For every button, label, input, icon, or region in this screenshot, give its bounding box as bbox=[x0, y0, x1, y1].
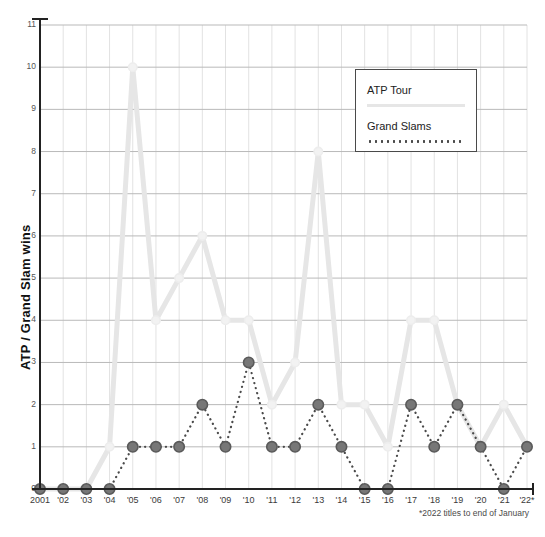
data-point-atp-tour bbox=[198, 232, 206, 240]
x-axis-tick-2010: '10 bbox=[243, 495, 255, 505]
x-axis-tick-2014: '14 bbox=[336, 495, 348, 505]
x-axis-tick-2020: '20 bbox=[475, 495, 487, 505]
data-point-grand-slams bbox=[336, 442, 346, 452]
data-point-atp-tour bbox=[407, 316, 415, 324]
data-point-atp-tour bbox=[221, 316, 229, 324]
x-axis-tick-2008: '08 bbox=[196, 495, 208, 505]
data-point-atp-tour bbox=[337, 400, 345, 408]
legend-swatch-grand-slams bbox=[367, 140, 465, 143]
data-point-atp-tour bbox=[291, 358, 299, 366]
data-point-atp-tour bbox=[105, 443, 113, 451]
x-axis-tick-2006: '06 bbox=[150, 495, 162, 505]
data-point-grand-slams bbox=[452, 399, 462, 409]
data-point-atp-tour bbox=[430, 316, 438, 324]
data-point-atp-tour bbox=[500, 400, 508, 408]
data-point-atp-tour bbox=[384, 443, 392, 451]
x-axis-tick-2022: '22* bbox=[519, 495, 534, 505]
data-point-grand-slams bbox=[174, 442, 184, 452]
legend-label-atp-tour: ATP Tour bbox=[367, 84, 412, 96]
data-point-grand-slams bbox=[406, 399, 416, 409]
data-point-grand-slams bbox=[128, 442, 138, 452]
data-point-grand-slams bbox=[267, 442, 277, 452]
data-point-grand-slams bbox=[290, 442, 300, 452]
x-axis-tick-2018: '18 bbox=[428, 495, 440, 505]
x-axis-tick-2019: '19 bbox=[452, 495, 464, 505]
x-axis-tick-2011: '11 bbox=[266, 495, 277, 505]
x-axis-tick-2002: '02 bbox=[57, 495, 69, 505]
data-point-atp-tour bbox=[314, 147, 322, 155]
x-axis-tick-2003: '03 bbox=[81, 495, 93, 505]
data-point-grand-slams bbox=[522, 442, 532, 452]
x-axis-tick-2007: '07 bbox=[173, 495, 185, 505]
x-axis-tick-2017: '17 bbox=[405, 495, 417, 505]
x-axis-tick-2013: '13 bbox=[312, 495, 324, 505]
data-point-grand-slams bbox=[151, 442, 161, 452]
chart-footnote: *2022 titles to end of January bbox=[419, 508, 529, 518]
chart-legend: ATP Tour Grand Slams bbox=[355, 69, 477, 152]
x-axis-tick-2012: '12 bbox=[289, 495, 301, 505]
chart-container: ATP / Grand Slam wins 01234567891011 200… bbox=[0, 0, 545, 537]
data-point-atp-tour bbox=[268, 400, 276, 408]
data-point-grand-slams bbox=[197, 399, 207, 409]
x-axis-tick-2001: 2001 bbox=[30, 495, 50, 505]
data-point-atp-tour bbox=[360, 400, 368, 408]
data-point-grand-slams bbox=[475, 442, 485, 452]
data-point-atp-tour bbox=[129, 63, 137, 71]
legend-swatch-atp-tour bbox=[367, 104, 465, 107]
data-point-grand-slams bbox=[220, 442, 230, 452]
x-axis-tick-2009: '09 bbox=[220, 495, 232, 505]
x-axis-tick-2005: '05 bbox=[127, 495, 139, 505]
x-axis-tick-2004: '04 bbox=[104, 495, 116, 505]
x-axis-tick-2015: '15 bbox=[359, 495, 371, 505]
data-point-atp-tour bbox=[175, 274, 183, 282]
data-point-grand-slams bbox=[313, 399, 323, 409]
data-point-grand-slams bbox=[244, 357, 254, 367]
x-axis-tick-2016: '16 bbox=[382, 495, 394, 505]
x-axis-tick-2021: '21 bbox=[498, 495, 510, 505]
data-point-atp-tour bbox=[245, 316, 253, 324]
data-point-atp-tour bbox=[152, 316, 160, 324]
data-point-grand-slams bbox=[429, 442, 439, 452]
legend-label-grand-slams: Grand Slams bbox=[367, 120, 431, 132]
